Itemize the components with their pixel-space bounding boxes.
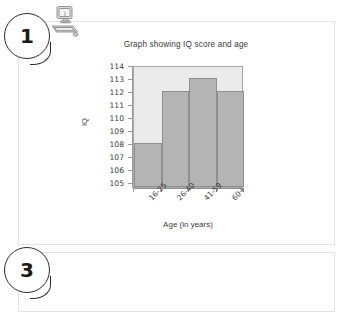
plot-area bbox=[133, 66, 243, 188]
callout-bubble-1: 1 bbox=[4, 13, 50, 59]
y-tick bbox=[128, 79, 132, 80]
bar-41-59 bbox=[189, 78, 217, 187]
bar-chart: Graph showing IQ score and age IQ 105106… bbox=[84, 40, 264, 240]
chart-title: Graph showing IQ score and age bbox=[106, 40, 266, 49]
y-tick-label: 106 bbox=[100, 165, 124, 174]
y-tick bbox=[128, 144, 132, 145]
bar-16-25 bbox=[134, 143, 162, 187]
y-tick-label: 108 bbox=[100, 139, 124, 148]
y-tick-label: 114 bbox=[100, 62, 124, 71]
y-tick-label: 107 bbox=[100, 152, 124, 161]
y-tick bbox=[128, 183, 132, 184]
y-tick bbox=[128, 157, 132, 158]
y-tick bbox=[128, 92, 132, 93]
y-tick-label: 109 bbox=[100, 126, 124, 135]
y-tick-label: 111 bbox=[100, 100, 124, 109]
y-tick-label: 113 bbox=[100, 74, 124, 83]
y-tick bbox=[128, 66, 132, 67]
y-tick bbox=[128, 118, 132, 119]
y-axis-title: IQ bbox=[80, 118, 89, 126]
callout-bubble-3: 3 bbox=[4, 247, 50, 293]
y-tick bbox=[128, 131, 132, 132]
computer-icon: I bbox=[47, 5, 83, 39]
x-axis-title: Age (in years) bbox=[133, 220, 243, 229]
y-axis-line bbox=[132, 66, 133, 188]
y-tick bbox=[128, 170, 132, 171]
y-tick-label: 110 bbox=[100, 113, 124, 122]
y-tick bbox=[128, 105, 132, 106]
bar-60+ bbox=[217, 91, 245, 187]
svg-text:I: I bbox=[64, 10, 66, 17]
slide-frame-bottom bbox=[18, 252, 335, 312]
bar-26-40 bbox=[162, 91, 190, 187]
y-tick-label: 112 bbox=[100, 87, 124, 96]
y-tick-label: 105 bbox=[100, 178, 124, 187]
plot-wrapper: IQ 105106107108109110111112113114 16-252… bbox=[84, 66, 244, 192]
x-tick bbox=[133, 188, 134, 192]
